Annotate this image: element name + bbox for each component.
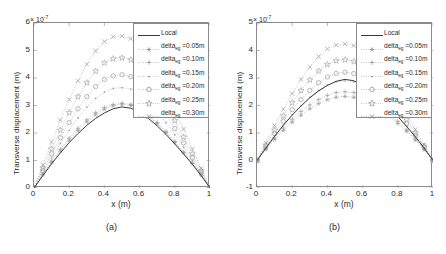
legend-entry-label: deltaeg =0.15m	[384, 69, 427, 78]
y-tick-label: 1	[16, 155, 30, 164]
x-tick-label: 0.4	[316, 189, 336, 198]
y-tick-label: 2	[239, 100, 253, 109]
legend-entry: deltaeg =0.15m	[137, 67, 205, 81]
legend-entry: deltaeg =0.25m	[137, 94, 205, 108]
legend-entry: Local	[360, 26, 428, 40]
y-tick-label: 5	[16, 45, 30, 54]
legend-marker-asterisk-icon	[360, 41, 384, 52]
legend-marker-cross-icon	[360, 108, 384, 119]
y-tick-label: 3	[16, 100, 30, 109]
legend-entry-label: Local	[161, 29, 177, 36]
x-axis-label-b: x (m)	[256, 199, 432, 209]
x-tick-label: 0	[246, 189, 266, 198]
x-tick-label: 1	[422, 189, 442, 198]
x-tick-label: 0.8	[387, 189, 407, 198]
legend-entry-label: deltaeg =0.10m	[384, 55, 427, 64]
panel-caption-b: (b)	[223, 222, 446, 232]
legend-entry: deltaeg =0.10m	[137, 53, 205, 67]
legend-entry: Local	[137, 26, 205, 40]
x-tick-label: 0.6	[352, 189, 372, 198]
panel-b: × 10-7 Transverse displacement (m) -1012…	[223, 0, 446, 254]
legend-a: Localdeltaeg =0.05mdeltaeg =0.10mdeltaeg…	[133, 23, 209, 118]
x-tick-label: 0.2	[58, 189, 78, 198]
legend-entry-label: deltaeg =0.25m	[161, 96, 204, 105]
legend-line-sample	[360, 27, 384, 38]
legend-entry-label: deltaeg =0.15m	[161, 69, 204, 78]
legend-entry: deltaeg =0.30m	[360, 107, 428, 121]
y-tick-label: 2	[16, 127, 30, 136]
legend-entry: deltaeg =0.05m	[137, 40, 205, 54]
x-tick-label: 0.4	[93, 189, 113, 198]
y-tick-label: 5	[239, 17, 253, 26]
legend-entry-label: deltaeg =0.20m	[161, 82, 204, 91]
x-axis-label-a: x (m)	[33, 199, 209, 209]
y-tick-label: 0	[239, 155, 253, 164]
legend-b: Localdeltaeg =0.05mdeltaeg =0.10mdeltaeg…	[356, 23, 432, 118]
y-tick-label: 4	[16, 72, 30, 81]
x-tick-label: 0.6	[129, 189, 149, 198]
x-tick-label: 0.8	[164, 189, 184, 198]
legend-entry-label: deltaeg =0.30m	[161, 109, 204, 118]
legend-marker-plus-icon	[360, 54, 384, 65]
figure-root: × 10-7 Transverse displacement (m) 01234…	[0, 0, 446, 254]
legend-entry: deltaeg =0.20m	[360, 80, 428, 94]
legend-marker-pentagram-icon	[137, 95, 161, 106]
legend-entry-label: deltaeg =0.25m	[384, 96, 427, 105]
x-tick-label: 0	[23, 189, 43, 198]
legend-marker-point-icon	[137, 68, 161, 79]
legend-entry-label: deltaeg =0.05m	[384, 42, 427, 51]
legend-entry-label: Local	[384, 29, 400, 36]
panel-a: × 10-7 Transverse displacement (m) 01234…	[0, 0, 223, 254]
y-tick-label: 3	[239, 72, 253, 81]
y-tick-label: 1	[239, 127, 253, 136]
legend-marker-cross-icon	[137, 108, 161, 119]
y-tick-label: 4	[239, 45, 253, 54]
legend-entry-label: deltaeg =0.20m	[384, 82, 427, 91]
legend-marker-asterisk-icon	[137, 41, 161, 52]
legend-entry: deltaeg =0.15m	[360, 67, 428, 81]
panel-caption-a: (a)	[0, 222, 223, 232]
legend-entry: deltaeg =0.05m	[360, 40, 428, 54]
legend-entry-label: deltaeg =0.10m	[161, 55, 204, 64]
y-tick-label: 6	[16, 17, 30, 26]
legend-marker-plus-icon	[137, 54, 161, 65]
legend-entry-label: deltaeg =0.30m	[384, 109, 427, 118]
legend-marker-pentagram-icon	[360, 95, 384, 106]
legend-marker-circle-icon	[137, 81, 161, 92]
legend-line-sample	[137, 27, 161, 38]
legend-entry: deltaeg =0.30m	[137, 107, 205, 121]
legend-marker-point-icon	[360, 68, 384, 79]
legend-entry-label: deltaeg =0.05m	[161, 42, 204, 51]
legend-entry: deltaeg =0.20m	[137, 80, 205, 94]
legend-entry: deltaeg =0.10m	[360, 53, 428, 67]
x-tick-label: 0.2	[281, 189, 301, 198]
legend-marker-circle-icon	[360, 81, 384, 92]
x-tick-label: 1	[199, 189, 219, 198]
legend-entry: deltaeg =0.25m	[360, 94, 428, 108]
